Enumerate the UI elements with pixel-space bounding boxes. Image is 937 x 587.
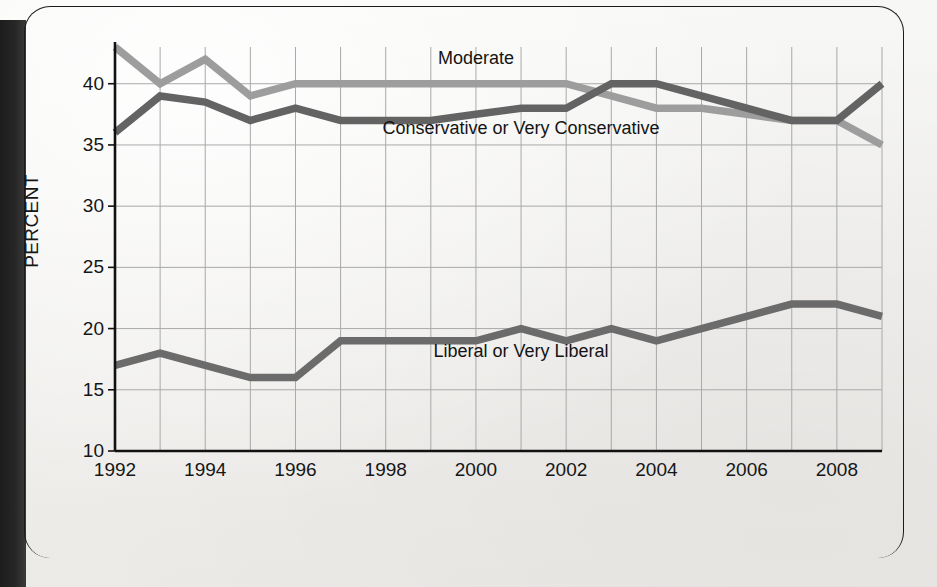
- x-tick-label: 2000: [441, 460, 511, 479]
- x-tick-label: 2004: [621, 460, 691, 479]
- x-tick-label: 2006: [712, 460, 782, 479]
- series-label-1: Conservative or Very Conservative: [382, 118, 659, 139]
- x-tick-label: 1994: [170, 460, 240, 479]
- figure-page: PERCENT 10152025303540 19921994199619982…: [0, 0, 937, 587]
- x-tick-label: 1992: [80, 460, 150, 479]
- series-label-0: Moderate: [438, 48, 514, 69]
- y-tick-label: 40: [58, 74, 104, 93]
- y-tick-label: 25: [58, 257, 104, 276]
- x-tick-label: 2002: [531, 460, 601, 479]
- y-tick-label: 20: [58, 319, 104, 338]
- line-chart: PERCENT 10152025303540 19921994199619982…: [0, 0, 937, 587]
- x-tick-label: 1998: [351, 460, 421, 479]
- x-tick-label: 1996: [260, 460, 330, 479]
- y-tick-label: 15: [58, 380, 104, 399]
- y-tick-label: 30: [58, 196, 104, 215]
- series-label-2: Liberal or Very Liberal: [433, 341, 608, 362]
- chart-svg: [0, 0, 937, 587]
- y-tick-label: 10: [58, 441, 104, 460]
- y-tick-label: 35: [58, 135, 104, 154]
- x-tick-label: 2008: [802, 460, 872, 479]
- y-axis-title: PERCENT: [21, 131, 43, 311]
